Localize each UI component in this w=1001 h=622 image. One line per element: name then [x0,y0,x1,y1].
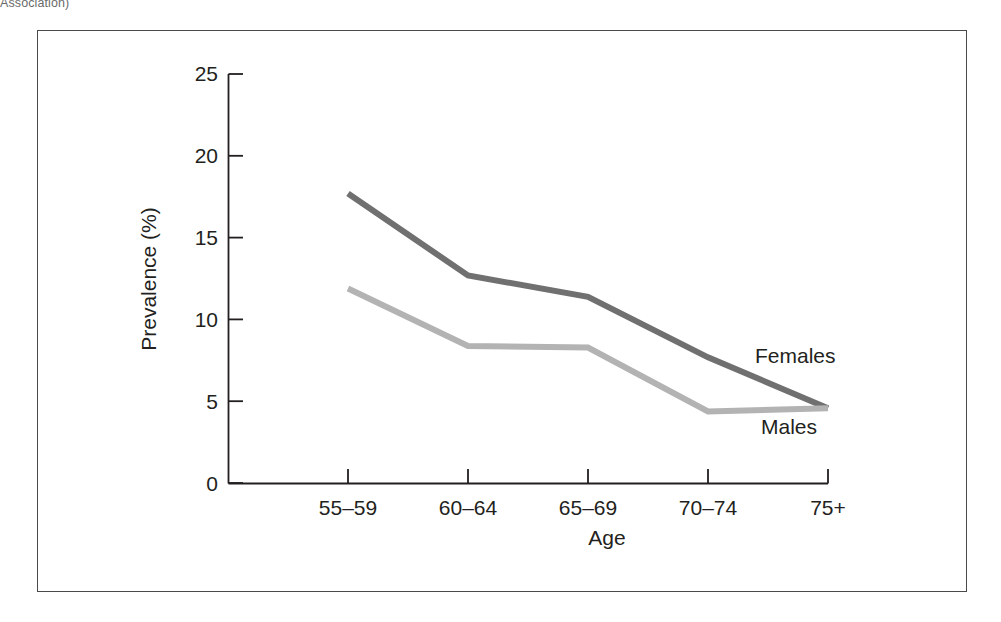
y-tick-label-0: 0 [206,472,218,495]
series-line-females [348,194,828,409]
x-tick-label-0: 55–59 [319,496,377,519]
x-axis-title: Age [588,526,625,549]
x-tick-label-1: 60–64 [439,496,498,519]
x-tick-label-3: 70–74 [679,496,738,519]
series-annotation-females: Females [755,344,836,367]
line-chart: 25 20 15 10 5 0 Prevalence (%) 55–59 60–… [0,0,1001,622]
series-annotation-males: Males [761,415,817,438]
x-axis-ticks [348,469,828,484]
y-axis-group: 25 20 15 10 5 0 Prevalence (%) [137,62,243,495]
y-tick-label-10: 10 [195,308,218,331]
x-axis-group: 55–59 60–64 65–69 70–74 75+ Age [229,469,846,549]
y-tick-label-15: 15 [195,226,218,249]
y-axis-ticks [229,74,244,483]
y-tick-label-5: 5 [206,390,218,413]
x-tick-label-2: 65–69 [559,496,617,519]
y-tick-label-25: 25 [195,62,218,85]
x-tick-label-4: 75+ [810,496,846,519]
y-tick-label-20: 20 [195,144,218,167]
y-axis-title: Prevalence (%) [137,207,160,351]
